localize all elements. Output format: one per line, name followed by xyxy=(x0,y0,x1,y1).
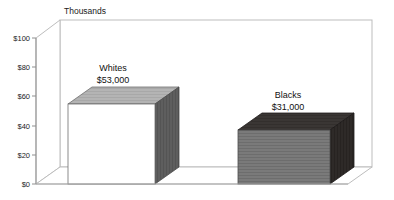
bar-front-face xyxy=(68,104,155,184)
y-tick-label: $40 xyxy=(17,122,30,131)
y-tick-40: $40 xyxy=(17,122,36,131)
y-tick-label: $100 xyxy=(13,34,30,43)
bar-side-face xyxy=(155,87,179,184)
axis-unit-note: Thousands xyxy=(64,6,106,16)
left-wall xyxy=(36,20,60,184)
y-tick-label: $80 xyxy=(17,63,30,72)
y-tick-80: $80 xyxy=(17,63,36,72)
y-axis: $100 $80 $60 $40 $20 $0 xyxy=(13,34,36,189)
y-tick-label: $60 xyxy=(17,92,30,101)
bar-category-label: Whites xyxy=(99,63,127,73)
bar-value-label: $53,000 xyxy=(97,75,130,85)
y-tick-60: $60 xyxy=(17,92,36,101)
y-tick-label: $20 xyxy=(17,151,30,160)
y-tick-0: $0 xyxy=(22,180,36,189)
bar-chart-3d: $100 $80 $60 $40 $20 $0 xyxy=(0,0,394,200)
bar-value-label: $31,000 xyxy=(272,102,305,112)
chart-container: $100 $80 $60 $40 $20 $0 xyxy=(0,0,394,200)
y-tick-100: $100 xyxy=(13,34,36,43)
y-tick-20: $20 xyxy=(17,151,36,160)
bar-front-face xyxy=(238,130,330,184)
y-tick-label: $0 xyxy=(22,180,30,189)
bar-category-label: Blacks xyxy=(275,90,302,100)
